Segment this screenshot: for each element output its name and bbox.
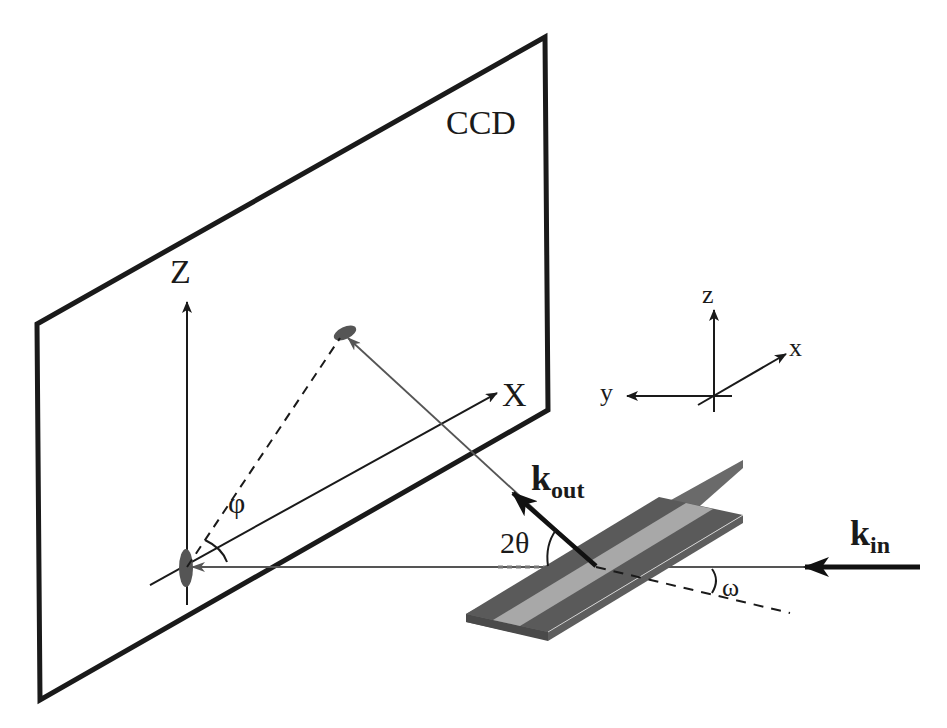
detector-z-label: Z bbox=[170, 253, 191, 290]
two-theta-label: 2θ bbox=[500, 526, 529, 559]
detector-x-label: X bbox=[502, 376, 527, 413]
detector-x-axis bbox=[150, 393, 497, 585]
sample-z-label: z bbox=[702, 280, 714, 309]
ccd-label: CCD bbox=[446, 104, 516, 141]
sample-y-label: y bbox=[600, 378, 613, 407]
phi-dashed-line bbox=[187, 338, 340, 567]
sample-coordinate-axes bbox=[627, 310, 786, 412]
direct-beam-spot bbox=[179, 549, 193, 587]
scattered-spot bbox=[332, 322, 359, 343]
omega-angle-arc bbox=[712, 569, 716, 593]
omega-label: ω bbox=[722, 573, 739, 602]
scattering-geometry-diagram: CCD Z X φ ω kout 2θ bbox=[0, 0, 947, 728]
k-in-label: kin bbox=[850, 513, 890, 558]
k-out-label: kout bbox=[531, 458, 584, 503]
sample-x-label: x bbox=[789, 333, 802, 362]
phi-label: φ bbox=[228, 486, 245, 519]
